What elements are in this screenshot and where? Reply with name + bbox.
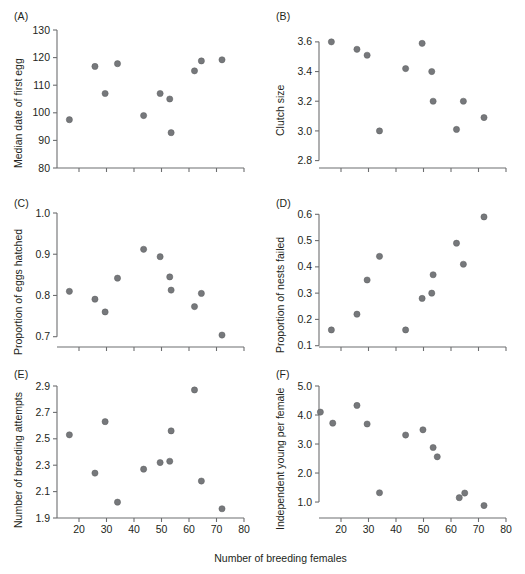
y-tick-label: 130: [32, 24, 50, 36]
x-tick-label: 50: [156, 523, 168, 535]
data-point: [376, 128, 382, 134]
data-point: [429, 68, 435, 74]
data-point: [219, 506, 225, 512]
data-point: [102, 90, 108, 96]
y-tick-label: 100: [32, 106, 50, 118]
data-point: [66, 117, 72, 123]
shared-x-axis-label: Number of breeding females: [18, 552, 525, 564]
x-tick-label: 30: [101, 523, 113, 535]
y-tick-label: 2.5: [35, 432, 50, 444]
data-point: [403, 327, 409, 333]
panel-a-plot: 8090100110120130: [0, 8, 262, 198]
panel-d: (D) Proportion of nests failed 0.10.20.3…: [262, 195, 524, 385]
y-tick-label: 5.0: [297, 380, 312, 392]
data-point: [453, 240, 459, 246]
y-tick-label: 0.4: [297, 260, 312, 272]
data-point: [430, 98, 436, 104]
data-point: [354, 311, 360, 317]
data-point: [167, 274, 173, 280]
data-point: [141, 246, 147, 252]
panel-c-plot: 0.70.80.91.0: [0, 195, 262, 385]
y-tick-label: 1.0: [35, 207, 50, 219]
data-point: [198, 478, 204, 484]
data-point: [376, 490, 382, 496]
data-point: [141, 112, 147, 118]
data-point: [403, 65, 409, 71]
panel-e-plot: 1.92.12.32.52.72.920304050607080: [0, 366, 262, 556]
x-tick-label: 60: [183, 523, 195, 535]
y-tick-label: 0.2: [297, 313, 312, 325]
data-point: [168, 287, 174, 293]
data-point: [481, 502, 487, 508]
y-tick-label: 2.0: [297, 467, 312, 479]
data-point: [328, 39, 334, 45]
data-point: [328, 327, 334, 333]
data-point: [198, 290, 204, 296]
data-point: [430, 444, 436, 450]
y-tick-label: 2.9: [35, 380, 50, 392]
y-tick-label: 2.7: [35, 406, 50, 418]
data-point: [92, 296, 98, 302]
data-point: [191, 303, 197, 309]
data-point: [420, 427, 426, 433]
y-tick-label: 2.3: [35, 459, 50, 471]
x-tick-label: 40: [390, 523, 402, 535]
y-tick-label: 0.8: [35, 289, 50, 301]
data-point: [419, 40, 425, 46]
data-point: [481, 114, 487, 120]
data-point: [191, 387, 197, 393]
data-point: [419, 295, 425, 301]
panel-d-plot: 0.10.20.30.40.50.6: [262, 195, 524, 385]
y-tick-label: 120: [32, 51, 50, 63]
data-point: [219, 57, 225, 63]
x-tick-label: 80: [238, 523, 250, 535]
x-tick-label: 70: [473, 523, 485, 535]
data-point: [364, 277, 370, 283]
data-point: [66, 432, 72, 438]
y-tick-label: 3.2: [297, 95, 312, 107]
panel-c: (C) Proportion of eggs hatched 0.70.80.9…: [0, 195, 262, 385]
x-tick-label: 70: [211, 523, 223, 535]
data-point: [114, 61, 120, 67]
data-point: [364, 421, 370, 427]
data-point: [141, 466, 147, 472]
y-tick-label: 3.4: [297, 65, 312, 77]
data-point: [429, 290, 435, 296]
data-point: [403, 432, 409, 438]
y-tick-label: 0.1: [297, 339, 312, 351]
y-tick-label: 4.0: [297, 409, 312, 421]
x-tick-label: 20: [73, 523, 85, 535]
y-tick-label: 0.5: [297, 234, 312, 246]
data-point: [102, 309, 108, 315]
y-tick-label: 2.1: [35, 485, 50, 497]
panel-a: (A) Median date of first egg 80901001101…: [0, 8, 262, 198]
y-tick-label: 1.9: [35, 512, 50, 524]
x-tick-label: 50: [418, 523, 430, 535]
data-point: [191, 68, 197, 74]
data-point: [462, 490, 468, 496]
data-point: [102, 419, 108, 425]
y-tick-label: 0.7: [35, 330, 50, 342]
panel-b: (B) Clutch size 2.83.03.23.43.6: [262, 8, 524, 198]
y-tick-label: 3.6: [297, 35, 312, 47]
y-tick-label: 110: [33, 79, 50, 91]
y-tick-label: 3.0: [297, 438, 312, 450]
y-tick-label: 90: [38, 134, 50, 146]
data-point: [481, 214, 487, 220]
x-tick-label: 60: [445, 523, 457, 535]
data-point: [317, 409, 323, 415]
data-point: [157, 459, 163, 465]
data-point: [167, 96, 173, 102]
panel-f-plot: 1.02.03.04.05.020304050607080: [262, 366, 524, 556]
y-tick-label: 3.0: [297, 125, 312, 137]
data-point: [354, 46, 360, 52]
data-point: [157, 254, 163, 260]
data-point: [168, 130, 174, 136]
data-point: [430, 272, 436, 278]
x-tick-label: 30: [363, 523, 375, 535]
data-point: [453, 126, 459, 132]
data-point: [198, 58, 204, 64]
y-tick-label: 0.6: [297, 208, 312, 220]
x-tick-label: 20: [335, 523, 347, 535]
data-point: [66, 288, 72, 294]
